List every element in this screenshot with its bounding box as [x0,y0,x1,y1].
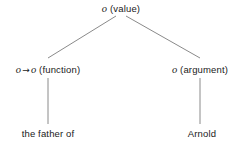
edge-root-to-function [48,16,116,58]
node-function-role-label: (function) [36,64,80,75]
node-argument: o (argument) [172,64,228,75]
semantic-composition-tree: o (value) o→o (function) o (argument) th… [0,0,241,143]
node-function: o→o (function) [16,64,80,76]
node-argument-role-label: (argument) [177,64,228,75]
node-root-role-label: (value) [107,3,140,14]
node-root-value: o (value) [102,3,140,14]
arrow-icon: → [21,65,31,75]
leaf-the-father-of: the father of [22,128,75,139]
leaf-arnold: Arnold [188,128,216,139]
edge-root-to-argument [126,16,200,58]
